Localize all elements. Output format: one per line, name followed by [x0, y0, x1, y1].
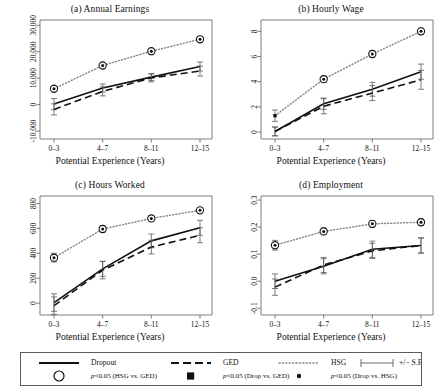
- legend: DropoutGEDHSG+/− S.E.p<0.05 (HSG vs. GED…: [20, 352, 422, 386]
- y-tick-label: 2: [250, 105, 259, 109]
- legend-square-icon: [187, 372, 194, 379]
- sig-dot-icon: [53, 256, 56, 259]
- significance-marker: [196, 207, 203, 214]
- significance-marker: [273, 114, 276, 117]
- x-tick-label: 0–3: [269, 144, 280, 153]
- series-line-dropout: [275, 245, 421, 281]
- legend-label-ged: GED: [223, 358, 239, 367]
- y-tick-label: 4: [250, 80, 259, 84]
- y-tick-label: 200: [29, 272, 38, 283]
- significance-marker: [50, 254, 57, 261]
- significance-marker: [271, 242, 278, 249]
- legend-label-sig-drop-ged: p<0.05 (Drop vs. GED): [222, 372, 290, 380]
- y-tick-label: -0.1: [250, 302, 259, 314]
- x-tick-label: 4–7: [318, 144, 329, 153]
- sig-dot-icon: [420, 221, 423, 224]
- y-tick-label: 8: [250, 29, 259, 33]
- y-tick-label: 0: [29, 301, 38, 305]
- series-line-dropout: [54, 67, 200, 105]
- series-line-ged: [275, 80, 421, 132]
- y-tick-label: -10,000: [29, 119, 38, 142]
- x-tick-label: 0–3: [269, 320, 280, 329]
- sig-dot-icon: [274, 244, 277, 247]
- sig-dot-icon: [322, 78, 325, 81]
- series-line-dropout: [54, 228, 200, 303]
- series-line-ged: [275, 245, 421, 287]
- significance-marker: [148, 215, 155, 222]
- error-bar: [272, 279, 278, 295]
- legend-label-sig-drop-hsg: p<0.05 (Drop vs. HSG): [330, 372, 398, 380]
- y-tick-label: 800: [29, 198, 38, 209]
- significance-marker: [320, 76, 327, 83]
- legend-dot-icon: [297, 374, 301, 378]
- significance-marker: [196, 36, 203, 43]
- significance-marker: [417, 219, 424, 226]
- legend-label-sig-hsg-ged: p<0.05 (HSG vs. GED): [90, 372, 158, 380]
- x-tick-label: 8–11: [144, 144, 159, 153]
- x-tick-label: 12–15: [191, 144, 210, 153]
- x-axis-label: Potential Experience (Years): [221, 156, 441, 166]
- sig-dot-icon: [371, 222, 374, 225]
- y-tick-label: 30,000: [29, 15, 38, 36]
- series-line-hsg: [275, 222, 421, 245]
- sig-dot-icon: [322, 230, 325, 233]
- series-line-dropout: [275, 72, 421, 132]
- sig-dot-icon: [150, 50, 153, 53]
- plot-area-b: 024680–34–78–1112–15: [221, 0, 441, 176]
- x-tick-label: 12–15: [191, 320, 210, 329]
- legend-circle-icon: [54, 371, 64, 381]
- plot-area-c: 02004006008000–34–78–1112–15: [0, 176, 220, 352]
- figure-root: (a) Annual Earnings -10,000010,00020,000…: [0, 0, 441, 389]
- significance-marker: [99, 225, 106, 232]
- legend-label-dropout: Dropout: [91, 358, 117, 367]
- sig-dot-icon: [53, 87, 56, 90]
- x-axis-label: Potential Experience (Years): [0, 332, 220, 342]
- y-tick-label: 0.0: [250, 276, 259, 286]
- significance-marker: [320, 228, 327, 235]
- x-tick-label: 12–15: [412, 144, 431, 153]
- sig-dot-icon: [199, 38, 202, 41]
- significance-marker: [99, 62, 106, 69]
- series-line-hsg: [54, 39, 200, 88]
- series-line-ged: [54, 235, 200, 305]
- sig-dot-icon: [150, 217, 153, 220]
- legend-label-se: +/− S.E.: [399, 358, 421, 367]
- series-line-ged: [54, 71, 200, 109]
- x-tick-label: 8–11: [144, 320, 159, 329]
- x-tick-label: 4–7: [318, 320, 329, 329]
- y-tick-label: 400: [29, 247, 38, 258]
- y-tick-label: 0: [250, 130, 259, 134]
- y-tick-label: 0.2: [250, 222, 259, 232]
- x-tick-label: 12–15: [412, 320, 431, 329]
- significance-marker: [417, 28, 424, 35]
- legend-content: DropoutGEDHSG+/− S.E.p<0.05 (HSG vs. GED…: [21, 353, 421, 385]
- plot-area-d: -0.10.00.10.20.30–34–78–1112–15: [221, 176, 441, 352]
- error-bar: [272, 127, 278, 136]
- y-tick-label: 0.1: [250, 249, 259, 259]
- panel-hours-worked: (c) Hours Worked 02004006008000–34–78–11…: [0, 176, 220, 352]
- significance-marker: [369, 220, 376, 227]
- panel-employment: (d) Employment -0.10.00.10.20.30–34–78–1…: [221, 176, 441, 352]
- x-tick-label: 4–7: [97, 144, 108, 153]
- sig-dot-icon: [371, 53, 374, 56]
- sig-dot-icon: [199, 209, 202, 212]
- x-tick-label: 8–11: [365, 320, 380, 329]
- y-tick-label: 0: [29, 102, 38, 106]
- significance-marker: [50, 85, 57, 92]
- x-tick-label: 4–7: [97, 320, 108, 329]
- sig-square-icon: [273, 114, 276, 117]
- legend-label-hsg: HSG: [331, 358, 347, 367]
- y-tick-label: 600: [29, 223, 38, 234]
- y-tick-label: 20,000: [29, 41, 38, 62]
- x-tick-label: 8–11: [365, 144, 380, 153]
- plot-area-a: -10,000010,00020,00030,0000–34–78–1112–1…: [0, 0, 220, 176]
- panel-annual-earnings: (a) Annual Earnings -10,000010,00020,000…: [0, 0, 220, 176]
- x-axis-label: Potential Experience (Years): [0, 156, 220, 166]
- y-tick-label: 0.3: [250, 195, 259, 205]
- error-bar: [51, 297, 57, 314]
- sig-dot-icon: [101, 228, 104, 231]
- sig-dot-icon: [420, 30, 423, 33]
- x-tick-label: 0–3: [48, 144, 59, 153]
- y-tick-label: 6: [250, 54, 259, 58]
- series-line-hsg: [275, 31, 421, 115]
